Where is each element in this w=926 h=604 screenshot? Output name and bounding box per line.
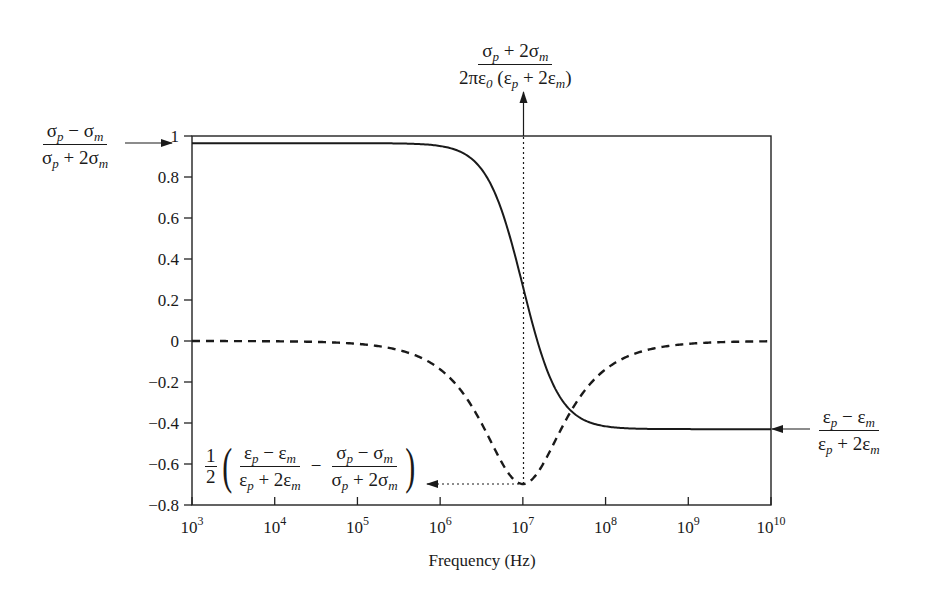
y-tick-label: 0.8 [158, 168, 179, 187]
x-axis-title: Frequency (Hz) [428, 551, 535, 570]
high-freq-limit-label: εp − εm εp + 2εm [814, 406, 884, 455]
y-tick-label: −0.4 [148, 414, 179, 433]
x-tick-label: 1010 [757, 514, 786, 537]
x-tick-label: 108 [594, 514, 617, 537]
y-tick-label: 0 [171, 332, 180, 351]
y-axis-ticks: 10.80.60.40.20−0.2−0.4−0.6−0.8 [148, 127, 192, 515]
y-tick-label: −0.2 [148, 373, 179, 392]
one-half-fraction: 1 2 [205, 446, 217, 487]
x-tick-label: 105 [346, 514, 369, 537]
conductivity-fraction: σp − σm σp + 2σm [327, 442, 401, 491]
x-tick-label: 103 [181, 514, 204, 537]
x-tick-label: 107 [511, 514, 534, 537]
y-tick-label: 0.2 [158, 291, 179, 310]
x-tick-label: 104 [263, 514, 286, 537]
imag-minimum-label: 1 2 ( εp − εm εp + 2εm − σp − σm σp + 2σ… [205, 441, 418, 491]
x-tick-label: 109 [677, 514, 700, 537]
x-axis-ticks: 1031041051061071081091010 [181, 497, 786, 537]
x-tick-label: 106 [429, 514, 452, 537]
permittivity-fraction: εp − εm εp + 2εm [235, 442, 305, 491]
real-part-solid-curve [192, 143, 771, 429]
y-tick-label: 0.4 [158, 250, 180, 269]
y-tick-label: −0.6 [148, 455, 179, 474]
left-paren: ( [222, 441, 232, 491]
crossover-frequency-label: σp + 2σm 2πε0 (εp + 2εm) [455, 40, 576, 89]
low-freq-limit-label: σp − σm σp + 2σm [38, 120, 112, 169]
right-paren: ) [405, 441, 415, 491]
y-tick-label: 0.6 [158, 209, 179, 228]
y-tick-label: −0.8 [148, 496, 179, 515]
chart: 10.80.60.40.20−0.2−0.4−0.6−0.8 103104105… [0, 0, 926, 604]
